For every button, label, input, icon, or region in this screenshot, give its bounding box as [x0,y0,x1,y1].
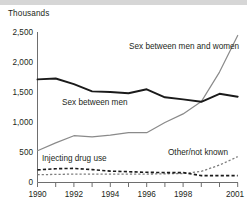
series-label-sex-between-men: Sex between men [62,98,128,107]
series-line-sex-between-men-and-women [38,36,238,151]
x-tick-label: 1990 [28,190,47,199]
x-tick-label: 1992 [65,190,84,199]
x-axis-tick-marks [38,183,238,188]
y-tick-label: 0 [28,178,33,187]
x-tick-label: 1998 [174,190,193,199]
series-label-sex-between-men-and-women: Sex between men and women [129,42,240,51]
y-tick-label: 2,000 [13,58,34,67]
chart-container: Thousands 0 500 1,000 1,500 2,000 2,500 [0,0,247,207]
line-chart-plot: 0 500 1,000 1,500 2,000 2,500 1990 [0,0,247,207]
y-axis-tick-labels: 0 500 1,000 1,500 2,000 2,500 [13,28,34,187]
x-tick-label: 2001 [226,190,245,199]
x-tick-label: 1994 [101,190,120,199]
x-tick-label: 1996 [138,190,157,199]
y-tick-label: 2,500 [13,28,34,37]
x-axis-tick-labels: 1990 1992 1994 1996 1998 2001 [28,190,244,199]
series-label-other-not-known: Other/not known [168,148,229,157]
y-tick-label: 500 [19,148,33,157]
y-tick-label: 1,000 [13,118,34,127]
y-tick-label: 1,500 [13,88,34,97]
series-label-injecting-drug-use: Injecting drug use [42,154,107,163]
